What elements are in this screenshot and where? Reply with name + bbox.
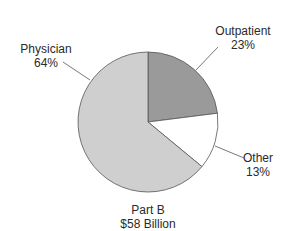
label-outpatient-pct: 23%	[206, 38, 280, 52]
label-outpatient: Outpatient 23%	[206, 24, 280, 52]
label-other-pct: 13%	[238, 165, 278, 179]
pie-slice-outpatient	[148, 52, 217, 122]
label-outpatient-name: Outpatient	[206, 24, 280, 38]
chart-caption: Part B $58 Billion	[100, 203, 196, 231]
label-physician-pct: 64%	[15, 56, 77, 70]
caption-title: Part B	[100, 203, 196, 217]
label-physician-name: Physician	[15, 42, 77, 56]
caption-total: $58 Billion	[100, 217, 196, 231]
label-physician: Physician 64%	[15, 42, 77, 70]
label-other: Other 13%	[238, 151, 278, 179]
label-other-name: Other	[238, 151, 278, 165]
